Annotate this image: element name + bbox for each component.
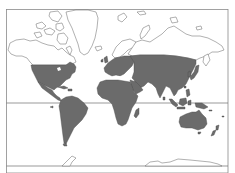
region-taiwan	[184, 86, 186, 88]
region-baffin-island	[57, 33, 68, 44]
mediterranean-sea	[110, 76, 131, 80]
region-ireland	[101, 59, 103, 62]
region-svalbard	[118, 13, 127, 22]
region-antarctic-peninsula	[62, 156, 76, 166]
region-borneo	[179, 98, 187, 106]
region-madagascar	[134, 108, 139, 118]
region-arctic-archipelago-2	[44, 28, 55, 35]
region-great-britain	[104, 56, 108, 63]
region-sri-lanka	[163, 97, 165, 100]
region-new-siberian-islands	[196, 26, 202, 30]
shaded-regions	[31, 55, 224, 146]
region-antarctica	[145, 159, 222, 166]
region-arctic-archipelago-5	[34, 32, 42, 38]
region-australia	[179, 110, 207, 130]
region-arctic-archipelago-1	[36, 22, 46, 29]
region-fiji	[222, 116, 224, 117]
region-hispaniola	[68, 89, 72, 91]
region-arctic-archipelago-3	[49, 11, 62, 22]
region-novaya-zemlya	[140, 25, 150, 39]
region-north-america	[31, 62, 76, 90]
region-franz-josef	[137, 11, 146, 15]
region-java	[177, 107, 185, 109]
region-kamchatka	[203, 54, 210, 66]
region-philippines	[186, 89, 190, 97]
region-galapagos	[50, 106, 53, 108]
black-sea	[128, 70, 134, 74]
world-map	[0, 0, 235, 173]
region-arctic-archipelago-4	[56, 23, 64, 31]
region-iceland	[95, 46, 102, 51]
region-new-guinea	[195, 103, 208, 109]
region-south-america	[59, 96, 88, 144]
region-new-zealand-south	[211, 130, 216, 136]
region-sulawesi	[188, 100, 191, 105]
region-solomon-islands	[209, 110, 212, 111]
region-severnaya-zemlya	[170, 17, 178, 23]
region-new-zealand-north	[216, 125, 219, 130]
region-tasmania	[198, 132, 201, 134]
